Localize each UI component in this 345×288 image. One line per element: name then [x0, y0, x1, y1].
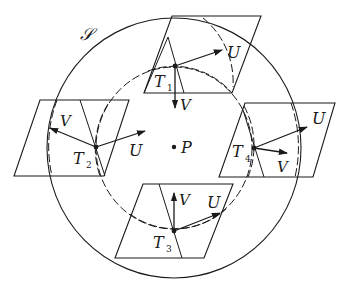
center-label: P [180, 138, 192, 157]
t2-label: T [73, 149, 85, 168]
v-label-4: V [277, 158, 290, 176]
u-label-1: U [227, 43, 241, 62]
u-vector-3 [174, 213, 220, 231]
tangent-plane-t1: U V T 1 [144, 16, 261, 114]
v-label-3: V [179, 191, 192, 209]
v-label-2: V [60, 112, 73, 130]
surface-label: 𝒮 [80, 24, 98, 44]
t4-sub: 4 [245, 154, 251, 164]
v-label-1: V [180, 96, 193, 114]
t1-label: T [154, 72, 166, 91]
t1-sub: 1 [167, 83, 173, 93]
u-vector-4 [254, 127, 307, 148]
tangent-plane-t3: V U T 3 [115, 184, 233, 258]
t4-label: T [232, 142, 244, 161]
tangent-planes-diagram: 𝒮 P U V T 1 V U T 2 [0, 0, 345, 288]
u-vector-1 [175, 50, 222, 66]
v-vector-4 [254, 148, 287, 153]
center-point [172, 145, 176, 149]
tangent-plane-t2: V U T 2 [14, 100, 145, 176]
t3-label: T [153, 233, 165, 252]
u-label-2: U [129, 141, 143, 160]
v-vector-2 [50, 128, 96, 147]
u-label-3: U [207, 193, 221, 212]
t3-sub: 3 [166, 244, 172, 254]
tangent-plane-t4: U V T 4 [219, 103, 335, 177]
u-label-4: U [312, 109, 326, 128]
t2-sub: 2 [86, 160, 92, 170]
